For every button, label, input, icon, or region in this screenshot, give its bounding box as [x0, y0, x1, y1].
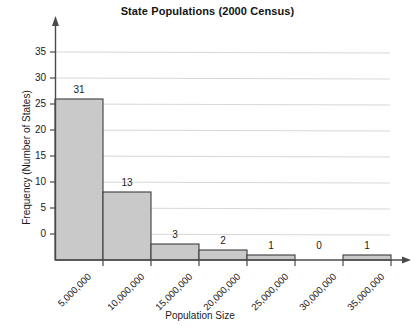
bar-value-2: 13 [107, 177, 147, 188]
bar-value-4: 2 [203, 235, 243, 246]
bar-bin-3 [151, 244, 199, 260]
bar-bin-1 [55, 99, 103, 260]
y-tick-label-30: 30 [18, 73, 46, 83]
bar-value-6: 0 [299, 240, 339, 251]
histogram-chart: State Populations (2000 Census) Frequenc… [0, 0, 415, 330]
y-tick-label-25: 25 [18, 99, 46, 109]
plot-area [0, 0, 415, 330]
y-tick-label-15: 15 [18, 151, 46, 161]
y-tick-label-5: 5 [18, 203, 46, 213]
y-tick-marks [50, 52, 55, 234]
y-tick-label-35: 35 [18, 47, 46, 57]
y-tick-label-10: 10 [18, 177, 46, 187]
bar-value-5: 1 [251, 240, 291, 251]
bar-value-7: 1 [347, 240, 387, 251]
y-tick-label-0: 0 [18, 229, 46, 239]
bar-bin-7 [343, 255, 391, 260]
bar-bin-2 [103, 192, 151, 260]
x-tick-marks [103, 260, 391, 266]
bar-value-1: 31 [59, 84, 99, 95]
bar-bin-4 [199, 250, 247, 260]
y-tick-label-20: 20 [18, 125, 46, 135]
bar-value-3: 3 [155, 229, 195, 240]
bar-bin-5 [247, 255, 295, 260]
x-axis-title: Population Size [55, 310, 345, 321]
